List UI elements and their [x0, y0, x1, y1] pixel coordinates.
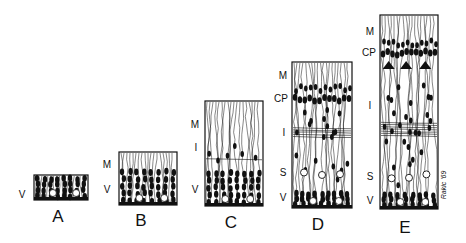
zone-label-i: I [195, 143, 198, 153]
column-d [292, 62, 352, 208]
histology-columns-drawing [0, 0, 466, 243]
zone-label-cp: CP [362, 48, 376, 58]
stage-label-a: A [52, 208, 63, 225]
zone-label-v: V [280, 193, 287, 203]
zone-label-v: V [192, 185, 199, 195]
zone-label-v: V [104, 185, 111, 195]
zone-label-m: M [191, 120, 199, 130]
zone-label-m: M [279, 71, 287, 81]
zone-label-m: M [366, 27, 374, 37]
zone-label-s: S [367, 172, 374, 182]
stage-label-c: C [225, 214, 237, 231]
column-b [119, 152, 177, 205]
stage-label-e: E [399, 219, 410, 236]
zone-label-cp: CP [274, 94, 288, 104]
column-c [205, 101, 263, 206]
zone-label-v: V [367, 196, 374, 206]
artist-signature: Rakic '69 [440, 171, 447, 200]
zone-label-s: S [280, 168, 287, 178]
zone-label-v: V [19, 190, 26, 200]
zone-label-i: I [283, 128, 286, 138]
zone-label-i: I [369, 101, 372, 111]
column-e [380, 15, 438, 209]
stage-label-d: D [312, 216, 324, 233]
cortical-development-figure [0, 0, 466, 243]
column-a [34, 175, 88, 201]
zone-label-m: M [103, 160, 111, 170]
stage-label-b: B [135, 212, 146, 229]
